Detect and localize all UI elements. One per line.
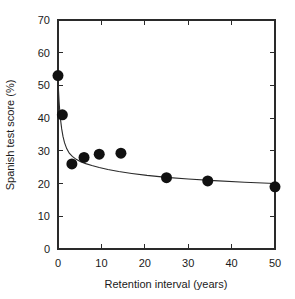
chart-figure: 010203040506070 01020304050 Retention in… (0, 0, 295, 299)
x-axis-title: Retention interval (years) (105, 278, 228, 290)
y-tick-label: 30 (38, 145, 50, 157)
y-tick-label: 60 (38, 47, 50, 59)
x-tick-label: 20 (139, 257, 151, 269)
data-point-marker (57, 109, 68, 120)
data-point-marker (66, 158, 77, 169)
data-point-marker (115, 148, 126, 159)
data-point-marker (79, 152, 90, 163)
x-tick-label: 10 (95, 257, 107, 269)
y-tick-label: 20 (38, 178, 50, 190)
y-tick-label: 0 (44, 243, 50, 255)
data-point-marker (270, 181, 281, 192)
y-axis-title: Spanish test score (%) (4, 80, 16, 191)
x-tick-label: 50 (269, 257, 281, 269)
data-point-marker (53, 70, 64, 81)
x-tick-label: 0 (55, 257, 61, 269)
data-point-marker (202, 175, 213, 186)
y-tick-label: 10 (38, 210, 50, 222)
y-tick-label: 50 (38, 79, 50, 91)
x-tick-label: 30 (182, 257, 194, 269)
y-tick-label: 70 (38, 14, 50, 26)
x-tick-label: 40 (225, 257, 237, 269)
data-point-marker (94, 149, 105, 160)
y-tick-label: 40 (38, 112, 50, 124)
scatter-chart: 010203040506070 01020304050 Retention in… (0, 0, 295, 299)
data-point-marker (161, 172, 172, 183)
